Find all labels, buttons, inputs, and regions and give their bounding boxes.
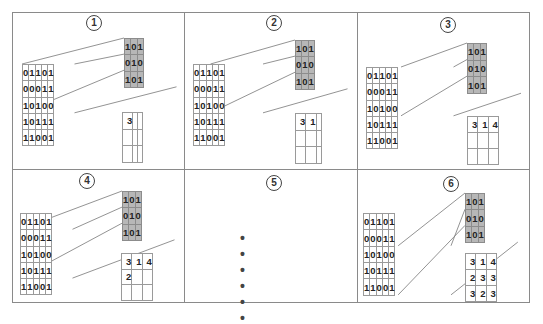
output-matrix-cell: 1	[476, 254, 486, 270]
input-matrix-row: 10100	[194, 97, 225, 113]
output-matrix-cell	[296, 130, 306, 147]
input-matrix-cell: 0	[219, 97, 225, 113]
kernel-matrix-cell: 1	[135, 224, 141, 240]
output-matrix-row	[296, 147, 322, 164]
row-divider	[12, 169, 530, 170]
output-matrix-cell: 1	[478, 117, 488, 133]
output-matrix-cell	[138, 129, 143, 146]
input-matrix-row: 00011	[364, 230, 395, 246]
output-matrix-row	[296, 130, 322, 147]
kernel-matrix-row: 101	[468, 77, 487, 94]
kernel-matrix-row: 101	[125, 39, 144, 55]
step-number-badge: 6	[443, 176, 459, 192]
input-matrix-row: 10100	[21, 246, 52, 262]
column-divider-2	[357, 12, 358, 303]
output-matrix-cell	[296, 147, 306, 164]
input-matrix-row: 10100	[23, 97, 54, 113]
step-number-badge: 1	[86, 15, 102, 31]
outer-frame	[12, 12, 530, 303]
kernel-matrix-cell: 0	[480, 60, 486, 77]
kernel-matrix-row: 101	[466, 226, 485, 242]
output-matrix-cell: 2	[466, 270, 476, 286]
input-matrix-row: 01101	[367, 68, 398, 84]
output-matrix: 31	[295, 113, 322, 164]
output-matrix-row	[468, 149, 499, 165]
input-matrix: 0110100011101001011111001	[22, 64, 54, 146]
kernel-matrix-row: 010	[125, 55, 144, 71]
output-matrix: 3	[122, 112, 143, 163]
output-matrix-row: 233	[466, 270, 497, 286]
input-matrix-row: 10111	[367, 116, 398, 132]
kernel-matrix: 101010101	[124, 38, 144, 88]
kernel-matrix-row: 010	[466, 210, 485, 226]
kernel-matrix-row: 010	[468, 60, 487, 77]
output-matrix-cell: 4	[488, 117, 498, 133]
output-matrix-row: 2	[122, 269, 153, 285]
output-matrix-cell	[316, 114, 321, 131]
input-matrix-cell: 1	[48, 113, 54, 129]
input-matrix-cell: 1	[219, 113, 225, 129]
input-matrix: 0110100011101001011111001	[193, 64, 225, 146]
output-matrix-cell	[132, 269, 142, 285]
kernel-matrix-cell: 1	[308, 73, 314, 89]
input-matrix-row: 11001	[194, 130, 225, 146]
output-matrix-cell	[123, 146, 133, 163]
step-number-badge: 4	[79, 173, 95, 189]
output-matrix-cell	[142, 269, 152, 285]
output-matrix-cell	[306, 147, 316, 164]
output-matrix-cell: 3	[486, 270, 496, 286]
input-matrix-cell: 1	[219, 65, 225, 81]
input-matrix-row: 00011	[367, 84, 398, 100]
output-matrix-cell: 3	[122, 254, 132, 270]
input-matrix-row: 01101	[194, 65, 225, 81]
output-matrix-cell: 2	[476, 286, 486, 302]
kernel-matrix-row: 101	[296, 41, 315, 57]
input-matrix-cell: 1	[48, 130, 54, 146]
input-matrix-row: 01101	[364, 214, 395, 230]
output-matrix-row: 314	[466, 254, 497, 270]
output-matrix-cell	[138, 113, 143, 130]
output-matrix-cell	[123, 129, 133, 146]
output-matrix-row	[468, 133, 499, 149]
input-matrix-cell: 1	[48, 65, 54, 81]
input-matrix-cell: 1	[219, 81, 225, 97]
input-matrix-cell: 1	[392, 116, 398, 132]
output-matrix-cell: 3	[296, 114, 306, 131]
output-matrix-cell: 3	[466, 286, 476, 302]
output-matrix-cell	[488, 149, 498, 165]
input-matrix-row: 11001	[364, 279, 395, 295]
input-matrix-row: 01101	[23, 65, 54, 81]
kernel-matrix-row: 010	[123, 208, 142, 224]
ellipsis-indicator: • • • • • •	[240, 230, 248, 324]
input-matrix-cell: 0	[389, 246, 395, 262]
step-number-badge: 2	[266, 15, 282, 31]
kernel-matrix-cell: 1	[480, 77, 486, 94]
output-matrix-cell: 3	[468, 117, 478, 133]
kernel-matrix-row: 101	[123, 224, 142, 240]
output-matrix-cell	[478, 133, 488, 149]
input-matrix-cell: 1	[46, 262, 52, 278]
input-matrix-row: 10100	[364, 246, 395, 262]
output-matrix-row: 314	[122, 254, 153, 270]
kernel-matrix: 101010101	[295, 40, 315, 90]
output-matrix-cell: 3	[466, 254, 476, 270]
output-matrix: 314	[467, 116, 499, 165]
kernel-matrix-cell: 0	[135, 208, 141, 224]
kernel-matrix-row: 101	[125, 71, 144, 87]
output-matrix-cell	[468, 149, 478, 165]
output-matrix-cell	[306, 130, 316, 147]
input-matrix-cell: 0	[48, 97, 54, 113]
kernel-matrix-row: 101	[296, 73, 315, 89]
input-matrix-row: 00011	[21, 230, 52, 246]
output-matrix-cell: 3	[123, 113, 133, 130]
input-matrix-row: 10111	[21, 262, 52, 278]
output-matrix-cell	[478, 149, 488, 165]
input-matrix-cell: 1	[48, 81, 54, 97]
output-matrix-cell: 1	[306, 114, 316, 131]
kernel-matrix-cell: 0	[137, 55, 143, 71]
output-matrix-cell	[138, 146, 143, 163]
kernel-matrix-row: 101	[123, 192, 142, 208]
kernel-matrix-row: 010	[296, 57, 315, 73]
input-matrix-cell: 1	[46, 230, 52, 246]
output-matrix-cell	[132, 285, 142, 301]
